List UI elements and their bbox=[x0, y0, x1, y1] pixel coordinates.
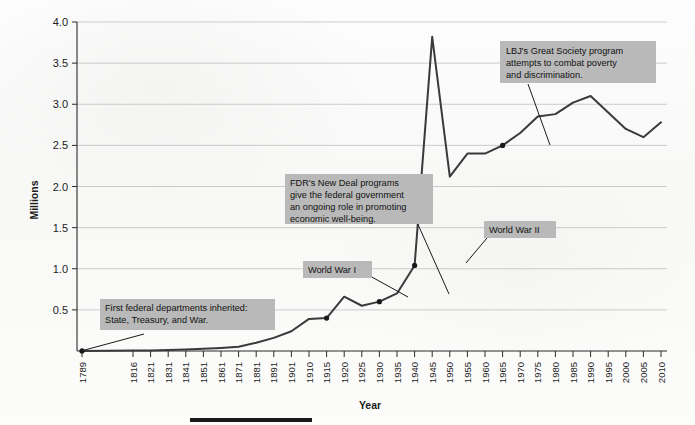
y-tick-label: 0.5 bbox=[53, 304, 68, 316]
y-tick-label: 1.0 bbox=[53, 263, 68, 275]
annotation-1-line-2: State, Treasury, and War. bbox=[105, 315, 208, 325]
y-axis-ticks-group: 4.03.53.02.52.01.51.00.5 bbox=[53, 16, 77, 316]
annotation-1-line-1: First federal departments inherited: bbox=[105, 303, 247, 313]
x-tick-label: 1960 bbox=[480, 362, 491, 383]
x-axis-title: Year bbox=[359, 399, 381, 411]
x-tick-label: 1821 bbox=[145, 362, 156, 383]
data-point-marker bbox=[412, 263, 417, 268]
x-tick-label: 1945 bbox=[427, 362, 438, 383]
x-tick-label: 1816 bbox=[128, 362, 139, 383]
x-axis-ticks-group: 1789181618211831184118511861187118811891… bbox=[77, 351, 667, 383]
x-tick-label: 1831 bbox=[163, 362, 174, 383]
x-tick-label: 1995 bbox=[603, 362, 614, 383]
y-tick-label: 3.5 bbox=[53, 57, 68, 69]
x-tick-label: 1950 bbox=[444, 362, 455, 383]
x-tick-label: 1930 bbox=[374, 362, 385, 383]
y-tick-label: 4.0 bbox=[53, 16, 68, 28]
y-tick-label: 2.0 bbox=[53, 181, 68, 193]
annotation-2-line-2: give the federal government bbox=[290, 190, 404, 200]
annotation-5-line-2: attempts to combat poverty bbox=[506, 58, 617, 68]
data-point-marker bbox=[377, 299, 382, 304]
y-tick-label: 1.5 bbox=[53, 222, 68, 234]
y-tick-label: 3.0 bbox=[53, 98, 68, 110]
annotation-4-line-1: World War II bbox=[489, 225, 540, 235]
line-chart-svg: 4.03.53.02.52.01.51.00.5 178918161821183… bbox=[0, 0, 695, 425]
x-tick-label: 1891 bbox=[268, 362, 279, 383]
x-tick-label: 1980 bbox=[550, 362, 561, 383]
x-tick-label: 1940 bbox=[409, 362, 420, 383]
annotation-fdr-new-deal: FDR's New Deal programs give the federal… bbox=[285, 174, 433, 224]
x-tick-label: 1789 bbox=[77, 362, 88, 383]
x-tick-label: 1955 bbox=[462, 362, 473, 383]
x-tick-label: 1935 bbox=[392, 362, 403, 383]
annotation-2-line-4: economic well-being. bbox=[290, 214, 376, 224]
bottom-rule-bar bbox=[190, 418, 312, 422]
y-axis-title: Millions bbox=[28, 180, 40, 219]
x-tick-label: 1920 bbox=[339, 362, 350, 383]
chart-container: 4.03.53.02.52.01.51.00.5 178918161821183… bbox=[0, 0, 695, 425]
x-tick-label: 2000 bbox=[620, 362, 631, 383]
x-tick-label: 2010 bbox=[656, 362, 667, 383]
x-tick-label: 1851 bbox=[198, 362, 209, 383]
annotation-3-line-1: World War I bbox=[308, 265, 356, 275]
annotation-lbj-great-society: LBJ's Great Society program attempts to … bbox=[500, 41, 656, 83]
annotation-world-war-two: World War II bbox=[484, 221, 556, 238]
x-tick-label: 1970 bbox=[515, 362, 526, 383]
annotation-first-federal-departments: First federal departments inherited: Sta… bbox=[100, 299, 275, 330]
x-tick-label: 1925 bbox=[356, 362, 367, 383]
x-tick-label: 1871 bbox=[233, 362, 244, 383]
y-tick-label: 2.5 bbox=[53, 139, 68, 151]
x-tick-label: 1985 bbox=[568, 362, 579, 383]
x-tick-label: 1861 bbox=[216, 362, 227, 383]
annotation-world-war-one: World War I bbox=[303, 261, 372, 278]
data-point-marker bbox=[500, 143, 505, 148]
x-tick-label: 1841 bbox=[180, 362, 191, 383]
annotation-5-line-3: and discrimination. bbox=[506, 70, 583, 80]
leader-world-war-two bbox=[466, 238, 487, 263]
annotation-2-line-3: an ongoing role in promoting bbox=[290, 202, 406, 212]
x-tick-label: 1975 bbox=[532, 362, 543, 383]
data-point-marker bbox=[324, 316, 329, 321]
x-tick-label: 2005 bbox=[638, 362, 649, 383]
annotation-5-line-1: LBJ's Great Society program bbox=[506, 46, 624, 56]
x-tick-label: 1910 bbox=[304, 362, 315, 383]
x-tick-label: 1990 bbox=[585, 362, 596, 383]
x-tick-label: 1915 bbox=[321, 362, 332, 383]
leader-first-federal-departments bbox=[81, 334, 144, 351]
x-tick-label: 1965 bbox=[497, 362, 508, 383]
x-tick-label: 1881 bbox=[251, 362, 262, 383]
annotation-2-line-1: FDR's New Deal programs bbox=[290, 178, 399, 188]
x-tick-label: 1901 bbox=[286, 362, 297, 383]
